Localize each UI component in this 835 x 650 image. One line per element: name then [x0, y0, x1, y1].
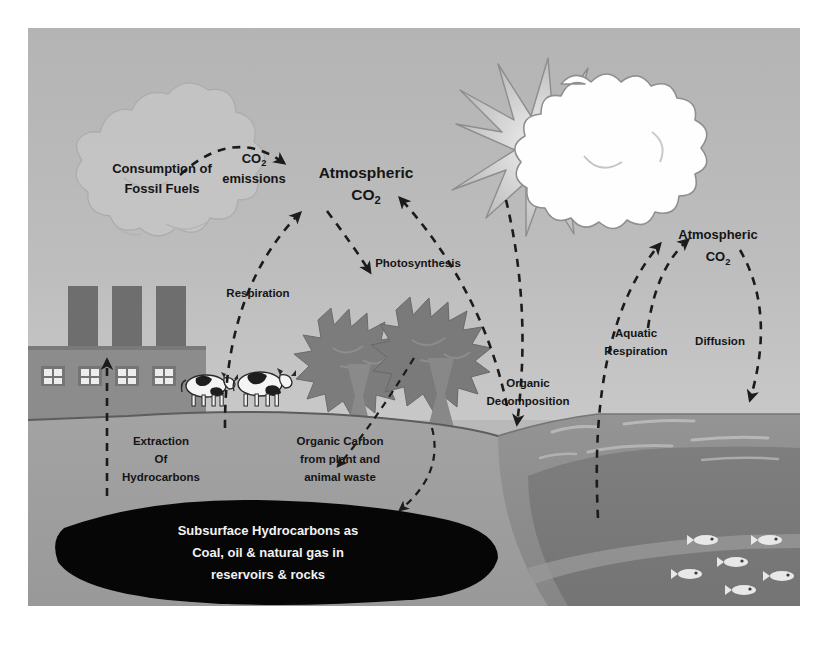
carbon-cycle-figure: Consumption of Fossil Fuels CO2 emission…	[28, 28, 800, 606]
carbon-cycle-svg: Consumption of Fossil Fuels CO2 emission…	[28, 28, 800, 606]
page-root: Consumption of Fossil Fuels CO2 emission…	[0, 0, 835, 650]
grain-overlay	[28, 28, 800, 606]
